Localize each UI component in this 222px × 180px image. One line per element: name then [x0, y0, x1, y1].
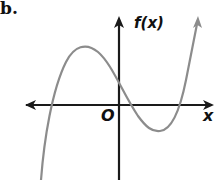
x-axis-label: x: [203, 106, 213, 125]
y-axis-label: f(x): [134, 14, 164, 32]
origin-label: O: [101, 106, 115, 125]
y-axis: [114, 16, 124, 180]
function-graph: [0, 0, 222, 180]
cubic-curve: [41, 16, 202, 180]
